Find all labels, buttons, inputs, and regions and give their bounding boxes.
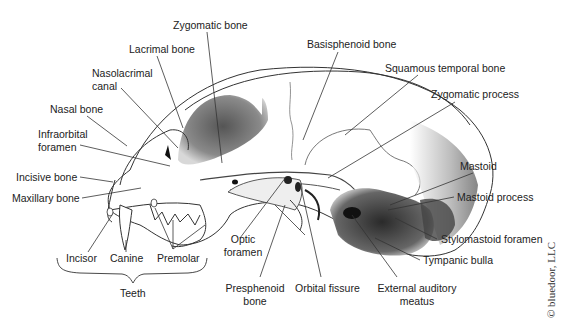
copyright-credit: © bluedoor, LLC: [545, 242, 557, 318]
label-lacrimal-bone: Lacrimal bone: [129, 43, 195, 55]
label-presphenoid-bone-line1: Presphenoid: [222, 282, 288, 294]
label-external-auditory-meatus-line1: External auditory: [370, 282, 464, 294]
label-infraorbital-foramen-line2: foramen: [38, 141, 77, 153]
label-zygomatic-bone: Zygomatic bone: [173, 19, 248, 31]
label-stylomastoid-foramen: Stylomastoid foramen: [441, 233, 543, 245]
label-incisive-bone: Incisive bone: [16, 171, 77, 183]
label-optic-foramen-line2: foramen: [218, 246, 268, 258]
label-tympanic-bulla: Tympanic bulla: [423, 254, 493, 266]
label-zygomatic-process: Zygomatic process: [431, 88, 519, 100]
label-teeth: Teeth: [120, 287, 146, 299]
label-mastoid-process: Mastoid process: [457, 191, 533, 203]
label-optic-foramen-line1: Optic: [218, 233, 268, 245]
label-mastoid: Mastoid: [460, 160, 497, 172]
label-nasolacrimal-canal-line2: canal: [92, 80, 117, 92]
label-canine: Canine: [110, 252, 143, 264]
label-maxillary-bone: Maxillary bone: [12, 192, 80, 204]
label-external-auditory-meatus-line2: meatus: [370, 295, 464, 307]
label-premolar: Premolar: [157, 252, 200, 264]
label-infraorbital-foramen-line1: Infraorbital: [38, 128, 88, 140]
skull-diagram: Zygomatic bone Lacrimal bone Nasolacrima…: [0, 0, 572, 332]
label-presphenoid-bone-line2: bone: [222, 295, 288, 307]
label-orbital-fissure: Orbital fissure: [295, 282, 360, 294]
label-basisphenoid-bone: Basisphenoid bone: [307, 38, 396, 50]
label-nasolacrimal-canal-line1: Nasolacrimal: [92, 67, 153, 79]
label-squamous-temporal-bone: Squamous temporal bone: [385, 62, 505, 74]
label-incisor: Incisor: [66, 252, 97, 264]
label-nasal-bone: Nasal bone: [50, 103, 103, 115]
